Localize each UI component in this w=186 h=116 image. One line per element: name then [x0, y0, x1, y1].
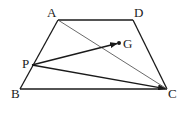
label-D: D — [134, 5, 143, 20]
label-G: G — [123, 36, 132, 51]
segment-AB — [20, 20, 58, 89]
point-G — [117, 41, 121, 45]
label-A: A — [47, 5, 57, 20]
geometry-diagram: A D B C P G — [0, 0, 186, 116]
label-C: C — [168, 86, 177, 101]
label-P: P — [22, 56, 29, 71]
label-B: B — [11, 86, 20, 101]
vector-PC — [32, 65, 165, 89]
vector-PG — [32, 44, 117, 66]
